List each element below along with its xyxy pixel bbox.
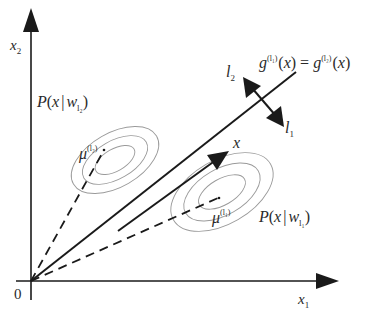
density-label-l1: P(x|wl₁) — [258, 208, 310, 228]
origin-label: 0 — [14, 286, 22, 302]
class-l2-labels: P(x|wl₂) μ(l₂) — [36, 93, 98, 163]
vector-x-label: x — [232, 134, 240, 151]
mean-l1-point — [218, 197, 221, 200]
density-label-l2: P(x|wl₂) — [36, 93, 88, 113]
l2-label: l2 — [226, 63, 235, 83]
l1-arrowhead-icon — [266, 106, 284, 127]
vector-x-arrowhead-icon — [207, 151, 229, 170]
dashed-line-to-mean-l1 — [31, 198, 218, 281]
boundary-equation-label: g(l₁)(x)=g(l₂)(x) — [259, 54, 350, 72]
class-l1-labels: μ(l₁) P(x|wl₁) — [211, 208, 310, 228]
decision-boundary-diagram: 0 x2 x1 x l2 l — [0, 0, 381, 319]
l1-label: l1 — [285, 119, 294, 139]
x1-axis-label: x1 — [297, 291, 309, 310]
x-axis-arrowhead-icon — [316, 273, 339, 289]
x2-axis-label: x2 — [9, 37, 21, 56]
y-axis-arrowhead-icon — [23, 8, 39, 32]
mean-l2-point — [103, 149, 106, 152]
contour-middle — [174, 151, 270, 233]
mean-label-l2: μ(l₂) — [78, 144, 98, 163]
dashed-line-to-mean-l2 — [31, 150, 104, 281]
class-l2-contours — [60, 113, 170, 208]
normal-arrow-shaft — [252, 88, 276, 116]
contour-outer — [60, 113, 170, 208]
